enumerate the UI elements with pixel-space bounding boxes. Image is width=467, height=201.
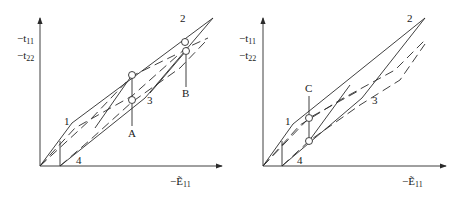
left-point-4: 4 xyxy=(76,155,82,166)
right-point-4: 4 xyxy=(297,155,303,166)
right-x-label: −Ẽ11 xyxy=(402,176,423,190)
right-point-2: 2 xyxy=(407,13,413,24)
right-outer-loop xyxy=(263,18,425,166)
left-circle-a-lower xyxy=(129,97,136,104)
right-point-3: 3 xyxy=(372,95,378,106)
left-marker-b-label: B xyxy=(182,88,189,99)
diagram-canvas xyxy=(0,0,467,201)
right-circle-c-upper xyxy=(306,115,313,122)
left-point-1: 1 xyxy=(64,116,70,127)
left-point-2: 2 xyxy=(180,13,186,24)
right-y-label-t11: −t11 xyxy=(239,33,256,47)
left-dashed-lower xyxy=(60,42,205,166)
left-y-label-t22: −t22 xyxy=(17,50,34,64)
left-dashed-upper xyxy=(40,38,208,166)
left-y-label-t11: −t11 xyxy=(17,33,34,47)
left-circle-b-lower xyxy=(183,48,190,55)
right-dashed-mid xyxy=(263,90,360,166)
left-circle-a-upper xyxy=(129,72,136,79)
right-marker-c-label: C xyxy=(305,83,312,94)
left-inner-solid-2 xyxy=(150,51,186,93)
left-point-3: 3 xyxy=(147,95,153,106)
right-point-1: 1 xyxy=(285,116,291,127)
right-panel xyxy=(263,18,446,166)
right-dashed-upper xyxy=(263,40,425,166)
right-circle-c-lower xyxy=(306,138,313,145)
left-panel xyxy=(40,18,222,166)
right-y-label-t22: −t22 xyxy=(239,50,256,64)
left-x-label: −Ẽ11 xyxy=(170,176,191,190)
left-marker-a-label: A xyxy=(128,128,136,139)
left-circle-b-upper xyxy=(182,39,189,46)
